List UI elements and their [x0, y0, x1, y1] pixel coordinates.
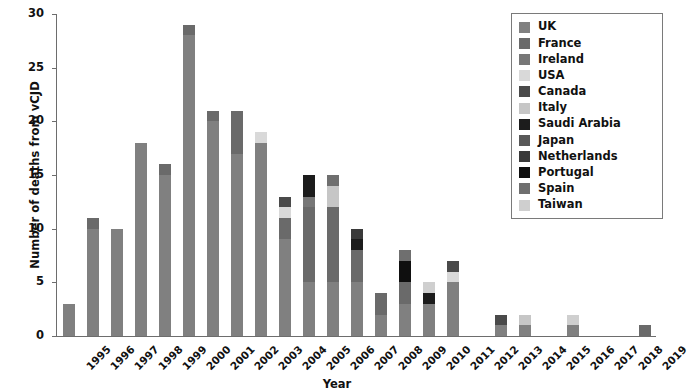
- bar-segment: [87, 229, 99, 336]
- bar-segment: [207, 111, 219, 122]
- legend-item[interactable]: Italy: [519, 100, 656, 116]
- y-tick-label: 25: [14, 62, 44, 74]
- legend-item[interactable]: USA: [519, 68, 656, 84]
- bar-segment: [423, 304, 435, 336]
- bar-segment: [447, 282, 459, 336]
- x-tick-label: 2014: [540, 343, 569, 372]
- bar-segment: [327, 175, 339, 186]
- x-tick-label: 2007: [372, 343, 401, 372]
- x-tick-label: 2019: [660, 343, 689, 372]
- bar-stack: [231, 111, 243, 336]
- bar-segment: [327, 207, 339, 282]
- bar-segment: [279, 218, 291, 239]
- bar-segment: [183, 35, 195, 336]
- x-tick-label: 2013: [516, 343, 545, 372]
- bar-stack: [423, 282, 435, 336]
- x-tick-label: 2009: [420, 343, 449, 372]
- bar-segment: [399, 282, 411, 303]
- bar-segment: [279, 207, 291, 218]
- bar-stack: [111, 229, 123, 336]
- legend-item[interactable]: Canada: [519, 84, 656, 100]
- legend-item[interactable]: UK: [519, 19, 656, 35]
- bar-segment: [447, 272, 459, 283]
- bar-segment: [399, 250, 411, 261]
- bar-stack: [303, 175, 315, 336]
- legend-label: Italy: [538, 102, 567, 114]
- bar-segment: [495, 325, 507, 336]
- legend-label: Netherlands: [538, 151, 618, 163]
- bar-segment: [351, 229, 363, 240]
- x-tick-label: 2011: [468, 343, 497, 372]
- bar-segment: [567, 325, 579, 336]
- legend-item[interactable]: Netherlands: [519, 149, 656, 165]
- bar-stack: [255, 132, 267, 336]
- bar-segment: [207, 121, 219, 336]
- x-tick-label: 2015: [564, 343, 593, 372]
- bar-segment: [87, 218, 99, 229]
- bar-segment: [375, 293, 387, 314]
- bar-segment: [423, 282, 435, 293]
- legend-swatch-icon: [519, 183, 530, 194]
- x-tick-label: 2018: [636, 343, 665, 372]
- legend-item[interactable]: Ireland: [519, 51, 656, 67]
- bar-segment: [423, 293, 435, 304]
- legend-label: USA: [538, 70, 565, 82]
- bar-stack: [159, 164, 171, 336]
- x-tick-label: 1995: [84, 343, 113, 372]
- bar-segment: [375, 315, 387, 336]
- bar-segment: [303, 207, 315, 282]
- x-tick-label: 2005: [324, 343, 353, 372]
- legend-item[interactable]: Portugal: [519, 165, 656, 181]
- bar-stack: [183, 25, 195, 336]
- bar-segment: [303, 282, 315, 336]
- x-tick-label: 2006: [348, 343, 377, 372]
- bar-stack: [375, 293, 387, 336]
- x-tick-label: 1997: [132, 343, 161, 372]
- legend-item[interactable]: Japan: [519, 132, 656, 148]
- legend-item[interactable]: Spain: [519, 181, 656, 197]
- x-tick-label: 2012: [492, 343, 521, 372]
- bar-segment: [231, 154, 243, 336]
- legend-item[interactable]: Saudi Arabia: [519, 116, 656, 132]
- legend-label: Ireland: [538, 54, 584, 66]
- bar-segment: [303, 175, 315, 196]
- bar-segment: [255, 132, 267, 143]
- bar-segment: [63, 304, 75, 336]
- legend-item[interactable]: Taiwan: [519, 197, 656, 213]
- y-tick-label: 30: [14, 8, 44, 20]
- bar-segment: [351, 282, 363, 336]
- legend-item[interactable]: France: [519, 35, 656, 51]
- bar-segment: [111, 229, 123, 336]
- legend-label: Canada: [538, 86, 586, 98]
- bar-segment: [495, 315, 507, 326]
- y-tick-label: 10: [14, 223, 44, 235]
- x-axis-title: Year: [0, 377, 674, 391]
- bar-segment: [567, 315, 579, 326]
- bar-segment: [519, 315, 531, 326]
- legend-swatch-icon: [519, 119, 530, 130]
- y-tick-mark: [52, 336, 57, 337]
- x-tick-label: 2004: [300, 343, 329, 372]
- bar-segment: [135, 143, 147, 336]
- bar-segment: [351, 239, 363, 250]
- bar-stack: [279, 197, 291, 336]
- bar-segment: [399, 261, 411, 282]
- legend-label: France: [538, 38, 581, 50]
- y-tick-label: 20: [14, 115, 44, 127]
- bar-segment: [639, 325, 651, 336]
- legend-label: Japan: [538, 135, 574, 147]
- legend-label: Taiwan: [538, 199, 583, 211]
- x-tick-label: 2016: [588, 343, 617, 372]
- bar-segment: [279, 239, 291, 336]
- x-tick-label: 2010: [444, 343, 473, 372]
- bar-stack: [639, 325, 651, 336]
- bar-stack: [519, 315, 531, 336]
- bar-segment: [303, 197, 315, 208]
- legend-swatch-icon: [519, 22, 530, 33]
- bar-stack: [399, 250, 411, 336]
- bar-stack: [567, 315, 579, 336]
- x-tick-label: 1998: [156, 343, 185, 372]
- bar-segment: [327, 282, 339, 336]
- legend-label: UK: [538, 21, 556, 33]
